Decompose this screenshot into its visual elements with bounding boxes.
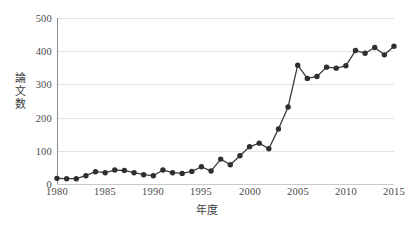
data-point bbox=[343, 63, 348, 68]
data-point bbox=[83, 173, 88, 178]
data-point bbox=[208, 168, 213, 173]
data-point bbox=[305, 76, 310, 81]
data-point bbox=[257, 140, 262, 145]
data-point bbox=[131, 170, 136, 175]
data-point bbox=[295, 62, 300, 67]
data-point bbox=[74, 176, 79, 181]
data-point bbox=[382, 52, 387, 57]
data-point bbox=[93, 169, 98, 174]
data-point bbox=[372, 45, 377, 50]
data-point bbox=[276, 126, 281, 131]
data-point bbox=[362, 50, 367, 55]
data-point bbox=[170, 170, 175, 175]
data-point bbox=[334, 65, 339, 70]
data-point bbox=[391, 44, 396, 49]
data-point bbox=[228, 162, 233, 167]
data-point bbox=[353, 48, 358, 53]
data-point bbox=[314, 74, 319, 79]
data-point bbox=[141, 172, 146, 177]
data-point bbox=[199, 164, 204, 169]
data-point bbox=[151, 173, 156, 178]
data-point bbox=[324, 64, 329, 69]
chart-container: 0 100 200 300 400 500 1980 1985 1990 199… bbox=[0, 0, 414, 225]
data-point bbox=[218, 156, 223, 161]
data-point bbox=[102, 170, 107, 175]
data-point bbox=[266, 146, 271, 151]
data-point bbox=[189, 169, 194, 174]
data-point bbox=[54, 176, 59, 181]
data-point bbox=[285, 104, 290, 109]
data-point bbox=[122, 168, 127, 173]
data-series bbox=[0, 0, 414, 225]
data-point bbox=[64, 176, 69, 181]
data-point bbox=[112, 167, 117, 172]
data-point bbox=[237, 153, 242, 158]
data-point bbox=[247, 144, 252, 149]
data-point bbox=[160, 167, 165, 172]
data-point bbox=[179, 171, 184, 176]
